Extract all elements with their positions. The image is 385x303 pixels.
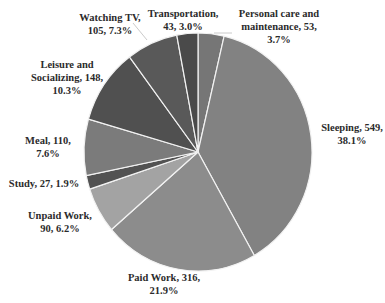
label-study: Study, 27, 1.9% (6, 177, 82, 190)
label-watching-tv: Watching TV, 105, 7.3% (74, 11, 146, 37)
label-meal: Meal, 110, 7.6% (18, 134, 78, 160)
label-personal-care: Personal care and maintenance, 53, 3.7% (228, 7, 330, 46)
label-leisure: Leisure and Socializing, 148, 10.3% (26, 58, 108, 97)
label-unpaid-work: Unpaid Work, 90, 6.2% (22, 209, 98, 235)
pie-slices (84, 33, 312, 271)
label-paid-work: Paid Work, 316, 21.9% (114, 271, 214, 297)
label-sleeping: Sleeping, 549, 38.1% (312, 121, 385, 147)
label-transportation: Transportation, 43, 3.0% (138, 7, 228, 33)
